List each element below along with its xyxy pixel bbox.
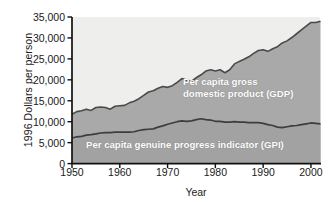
y-tick-label: 15,000 [13, 95, 65, 107]
x-axis-title: Year [72, 186, 320, 198]
chart-figure: 1996 Dollars per person 05,00010,00015,0… [0, 0, 332, 204]
gdp-series-annotation: Per capita gross domestic product (GDP) [183, 76, 293, 99]
gpi-annotation-line-1: Per capita genuine progress indicator (G… [86, 139, 284, 151]
gdp-annotation-line-2: domestic product (GDP) [183, 88, 293, 100]
y-tick-label: 25,000 [13, 53, 65, 65]
y-tick-label: 20,000 [13, 74, 65, 86]
gpi-series-annotation: Per capita genuine progress indicator (G… [86, 139, 284, 151]
y-tick-label: 30,000 [13, 32, 65, 44]
y-tick-label: 5,000 [13, 137, 65, 149]
gdp-annotation-line-1: Per capita gross [183, 76, 293, 88]
x-tick-label: 2000 [281, 166, 332, 178]
y-tick-label: 10,000 [13, 116, 65, 128]
y-tick-label: 35,000 [13, 11, 65, 23]
